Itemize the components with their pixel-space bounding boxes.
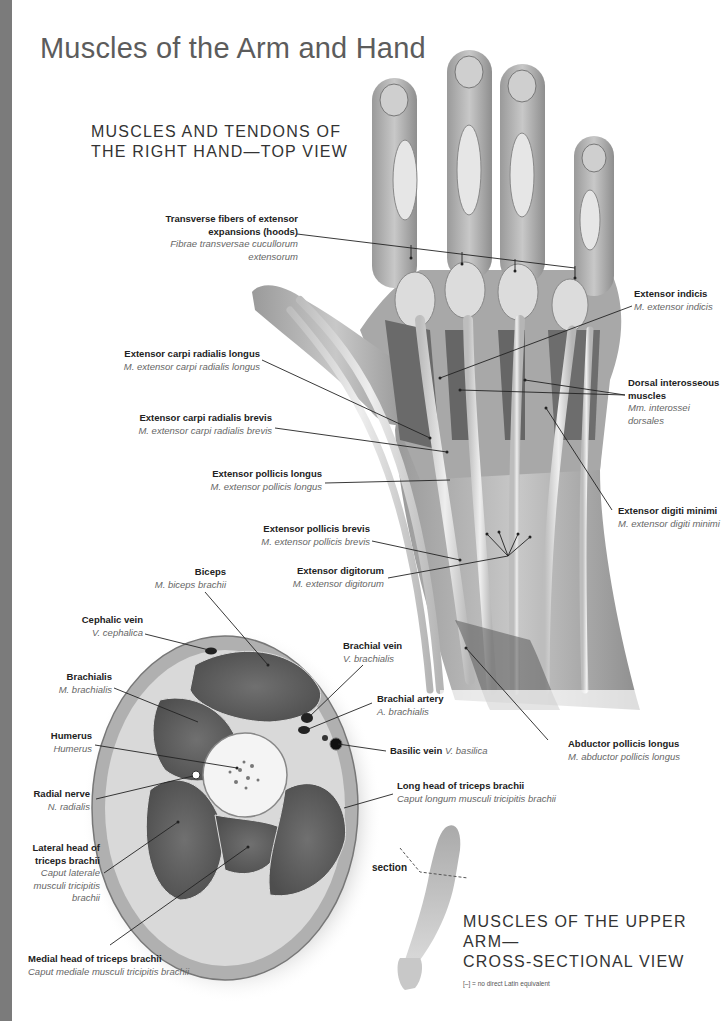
label-brachial-vein: Brachial vein V. brachialis [343,640,443,665]
label-long-head-triceps: Long head of triceps brachii Caput longu… [397,780,577,805]
label-abductor-pollicis-longus: Abductor pollicis longus M. abductor pol… [568,738,718,763]
upper-arm-cross-section [82,627,382,1003]
label-humerus: Humerus Humerus [12,730,92,755]
label-epb: Extensor pollicis brevis M. extensor pol… [210,523,370,548]
label-epl: Extensor pollicis longus M. extensor pol… [162,468,322,493]
label-extensor-digiti-minimi: Extensor digiti minimi M. extensor digit… [618,505,722,530]
arm-section-locator-figure [398,825,468,990]
footnote: [–] = no direct Latin equivalent [463,980,550,987]
label-radial-nerve: Radial nerve N. radialis [10,788,90,813]
label-transverse-fibers: Transverse fibers of extensor expansions… [128,213,298,263]
label-extensor-indicis: Extensor indicis M. extensor indicis [634,288,722,313]
hand-top-view [252,50,650,720]
label-biceps: Biceps M. biceps brachii [106,566,226,591]
anatomy-illustration [0,0,722,1021]
label-medial-head-triceps: Medial head of triceps brachii Caput med… [28,953,218,978]
label-cephalic-vein: Cephalic vein V. cephalica [43,614,143,639]
label-ecrb: Extensor carpi radialis brevis M. extens… [92,412,272,437]
label-ecrl: Extensor carpi radialis longus M. extens… [80,348,260,373]
label-dorsal-interosseous: Dorsal interosseous muscles Mm. inteross… [628,377,722,427]
cross-section-heading: MUSCLES OF THE UPPER ARM— CROSS-SECTIONA… [463,912,722,972]
section-label: section [372,862,407,873]
label-lateral-head-triceps: Lateral head of triceps brachii Caput la… [20,842,100,905]
label-basilic-vein: Basilic vein V. basilica [390,745,530,758]
label-brachialis: Brachialis M. brachialis [12,671,112,696]
label-extensor-digitorum: Extensor digitorum M. extensor digitorum [244,565,384,590]
label-brachial-artery: Brachial artery A. brachialis [377,693,477,718]
